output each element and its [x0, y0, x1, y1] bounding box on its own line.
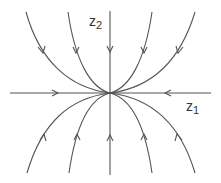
phase-portrait-diagram	[0, 0, 221, 183]
z1-axis-label: z1	[186, 99, 199, 116]
trajectory-upper-right-inner	[110, 12, 152, 93]
trajectory-lower-right-outer	[110, 93, 195, 173]
z2-axis-label: z2	[89, 14, 102, 31]
trajectory-lower-right-inner	[110, 93, 152, 173]
trajectory-lower-left-outer	[27, 93, 110, 173]
trajectory-upper-right-outer	[110, 12, 195, 93]
trajectory-lower-left-inner	[69, 93, 110, 173]
